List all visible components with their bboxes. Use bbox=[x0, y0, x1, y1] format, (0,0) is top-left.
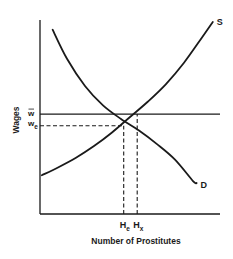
x-tick-label-He: He bbox=[120, 220, 131, 232]
y-tick-label-wbar: w bbox=[27, 109, 35, 118]
demand-curve-D bbox=[53, 30, 197, 184]
curve-label-D: D bbox=[201, 180, 208, 190]
supply-curve-S bbox=[42, 22, 213, 175]
y-tick-subscript: e bbox=[34, 123, 38, 130]
y-axis-title: Wages bbox=[11, 106, 21, 133]
curve-label-S: S bbox=[217, 17, 223, 27]
y-tick-label-we: we bbox=[27, 119, 38, 130]
supply-demand-chart: SDwweHeHxNumber of ProstitutesWages bbox=[0, 0, 233, 259]
x-tick-subscript: e bbox=[126, 225, 130, 232]
x-tick-label-Hx: Hx bbox=[133, 220, 144, 232]
x-axis-title: Number of Prostitutes bbox=[91, 236, 181, 246]
x-tick-subscript: x bbox=[140, 225, 144, 232]
